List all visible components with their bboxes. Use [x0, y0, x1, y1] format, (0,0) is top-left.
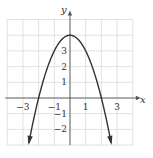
- svg-text:3: 3: [61, 46, 67, 56]
- svg-text:−3: −3: [16, 102, 30, 112]
- x-axis-label: x: [140, 94, 146, 105]
- svg-text:1: 1: [61, 77, 67, 87]
- parabola-chart: −3−113321−1−2 x y: [0, 0, 153, 158]
- svg-text:−1: −1: [54, 109, 67, 119]
- svg-text:2: 2: [61, 62, 67, 72]
- axes: [5, 11, 141, 146]
- svg-text:−2: −2: [54, 124, 67, 134]
- svg-text:1: 1: [83, 102, 89, 112]
- svg-text:3: 3: [114, 102, 120, 112]
- tick-labels: −3−113321−1−2: [16, 46, 120, 134]
- y-axis-label: y: [60, 4, 67, 15]
